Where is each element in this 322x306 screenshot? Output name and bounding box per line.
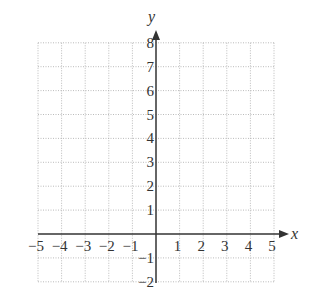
x-axis-arrow-icon [279, 230, 289, 238]
y-tick-label: 4 [147, 130, 155, 146]
y-tick-label: 1 [147, 202, 155, 218]
x-tick-label: 4 [245, 238, 253, 254]
x-tick-label: 1 [174, 238, 182, 254]
x-tick-label: −1 [122, 238, 138, 254]
y-tick-label: 5 [147, 107, 155, 123]
x-tick-label: 3 [221, 238, 229, 254]
y-axis-label: y [146, 8, 156, 26]
y-tick-label: −1 [138, 250, 154, 266]
y-tick-label: 8 [147, 35, 155, 51]
x-tick-label: −3 [75, 238, 91, 254]
x-tick-label: −4 [52, 238, 68, 254]
x-tick-label: −2 [99, 238, 115, 254]
x-tick-label: −5 [28, 238, 44, 254]
y-tick-label: 7 [147, 59, 155, 75]
y-tick-label: −2 [138, 274, 154, 290]
y-tick-label: 3 [147, 154, 155, 170]
x-tick-label: 2 [197, 238, 205, 254]
coordinate-plane: x y −5−4−3−2−112345 −2−112345678 [0, 0, 322, 306]
x-tick-label: 5 [268, 238, 276, 254]
y-tick-label: 6 [147, 83, 155, 99]
y-tick-label: 2 [147, 178, 155, 194]
x-axis-label: x [290, 225, 298, 242]
